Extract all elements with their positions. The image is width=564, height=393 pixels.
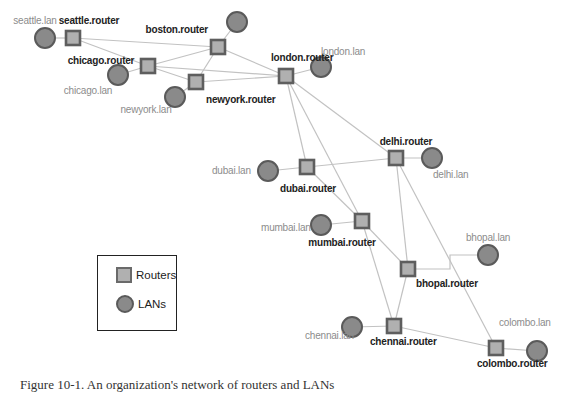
router-node-boston[interactable] (211, 40, 225, 54)
router-label: seattle.router (59, 15, 120, 26)
router-label: bhopal.router (416, 278, 478, 289)
router-node-bhopal[interactable] (401, 262, 415, 276)
lan-label: chennai.lan (305, 330, 354, 341)
router-label: newyork.router (206, 94, 276, 105)
router-label: mumbai.router (308, 237, 376, 248)
router-label: colombo.router (477, 358, 548, 369)
router-label: chennai.router (370, 336, 437, 347)
legend-item-routers: Routers (116, 267, 176, 283)
legend-routers-label: Routers (136, 269, 176, 281)
figure-caption: Figure 10-1. An organization's network o… (20, 377, 334, 393)
router-node-newyork[interactable] (189, 75, 203, 89)
link-london-mumbai (286, 76, 362, 221)
link-delhi-bhopal (396, 158, 408, 269)
lan-node-seattle-lan[interactable] (35, 28, 55, 48)
lan-label: bhopal.lan (466, 232, 510, 243)
router-node-london[interactable] (279, 69, 293, 83)
lan-label: newyork.lan (120, 104, 171, 115)
lan-circle-icon (116, 295, 134, 313)
router-node-dubai[interactable] (300, 160, 314, 174)
router-node-seattle[interactable] (66, 31, 80, 45)
lan-node-delhi-lan[interactable] (422, 148, 442, 168)
link-bhopal-chennai (394, 269, 408, 326)
router-label: delhi.router (380, 136, 433, 147)
legend-item-lans: LANs (116, 295, 166, 313)
lan-node-boston-lan[interactable] (227, 12, 247, 32)
router-label: boston.router (146, 24, 209, 35)
lan-label: mumbai.lan (261, 222, 311, 233)
router-node-colombo[interactable] (489, 341, 503, 355)
lan-node-chicago-lan[interactable] (108, 65, 128, 85)
link-dubai-delhi (307, 158, 396, 167)
lan-label: dubai.lan (212, 165, 251, 176)
router-node-delhi[interactable] (389, 151, 403, 165)
router-label: dubai.router (280, 183, 336, 194)
router-node-chennai[interactable] (387, 319, 401, 333)
router-label: london.router (271, 52, 334, 63)
link-newyork-london (196, 76, 286, 82)
lan-node-dubai-lan[interactable] (258, 161, 278, 181)
router-node-chicago[interactable] (141, 59, 155, 73)
legend-lans-label: LANs (138, 298, 166, 310)
router-node-mumbai[interactable] (355, 214, 369, 228)
router-label: chicago.router (68, 55, 135, 66)
lan-label: chicago.lan (64, 85, 112, 96)
lan-label: colombo.lan (499, 317, 551, 328)
router-square-icon (116, 267, 132, 283)
lan-node-bhopal-lan[interactable] (478, 245, 498, 265)
lan-label: seattle.lan (13, 15, 56, 26)
lan-label: delhi.lan (433, 169, 468, 180)
lan-node-mumbai-lan[interactable] (311, 215, 331, 235)
legend-box: Routers LANs (97, 255, 177, 331)
